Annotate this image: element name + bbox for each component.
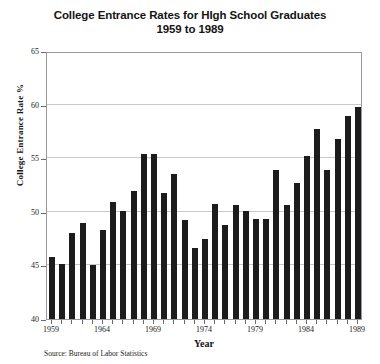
x-tick-mark — [71, 320, 72, 324]
y-tick-label: 55 — [31, 155, 39, 163]
bar — [49, 257, 55, 319]
y-tick-label: 50 — [31, 209, 39, 217]
x-tick-label: 1984 — [298, 325, 314, 334]
x-tick-mark — [194, 320, 195, 324]
x-tick-mark — [265, 320, 266, 324]
bar — [212, 204, 218, 319]
bar — [171, 174, 177, 319]
bar — [141, 154, 147, 319]
chart-title-line-2: 1959 to 1989 — [0, 22, 380, 36]
plot-area — [46, 52, 362, 320]
bar — [120, 211, 126, 319]
x-tick-mark — [286, 320, 287, 324]
x-tick-label: 1959 — [43, 325, 59, 334]
bar — [273, 170, 279, 319]
x-tick-mark — [255, 320, 256, 324]
x-tick-mark — [61, 320, 62, 324]
x-tick-mark — [122, 320, 123, 324]
bar — [59, 264, 65, 319]
source-note: Source: Bureau of Labor Statistics — [44, 349, 147, 358]
x-tick-mark — [163, 320, 164, 324]
bar — [90, 265, 96, 319]
bar-chart: College Entrance Rates for HIgh School G… — [0, 0, 380, 364]
bar — [253, 219, 259, 319]
y-tick-label: 45 — [31, 262, 39, 270]
bar — [294, 183, 300, 319]
x-tick-label: 1989 — [349, 325, 365, 334]
x-tick-label: 1964 — [94, 325, 110, 334]
bar — [314, 129, 320, 319]
bar — [243, 211, 249, 319]
y-tick-label: 40 — [31, 316, 39, 324]
x-tick-mark — [224, 320, 225, 324]
x-tick-mark — [316, 320, 317, 324]
x-tick-mark — [245, 320, 246, 324]
bar — [80, 223, 86, 319]
x-tick-mark — [112, 320, 113, 324]
x-tick-mark — [306, 320, 307, 324]
x-tick-mark — [173, 320, 174, 324]
bar — [100, 230, 106, 319]
y-tick-label: 60 — [31, 102, 39, 110]
bar — [284, 205, 290, 319]
x-tick-mark — [235, 320, 236, 324]
x-tick-mark — [143, 320, 144, 324]
bar — [222, 225, 228, 319]
bar — [131, 191, 137, 319]
bar — [161, 193, 167, 319]
chart-title: College Entrance Rates for HIgh School G… — [0, 8, 380, 36]
bar — [110, 202, 116, 319]
bar — [324, 170, 330, 319]
bar — [233, 205, 239, 319]
bars-layer — [47, 53, 361, 319]
bar — [182, 220, 188, 319]
bar — [151, 154, 157, 319]
bar — [335, 139, 341, 319]
x-tick-mark — [204, 320, 205, 324]
x-tick-mark — [51, 320, 52, 324]
x-tick-mark — [275, 320, 276, 324]
x-axis-title: Year — [46, 338, 362, 349]
x-tick-mark — [133, 320, 134, 324]
bar — [192, 248, 198, 319]
x-tick-mark — [326, 320, 327, 324]
x-tick-label: 1969 — [145, 325, 161, 334]
x-tick-mark — [296, 320, 297, 324]
x-tick-mark — [214, 320, 215, 324]
x-tick-label: 1979 — [247, 325, 263, 334]
bar — [345, 116, 351, 319]
x-tick-mark — [347, 320, 348, 324]
y-tick-label: 65 — [31, 48, 39, 56]
bar — [69, 233, 75, 319]
chart-title-line-1: College Entrance Rates for HIgh School G… — [54, 9, 327, 21]
x-tick-mark — [184, 320, 185, 324]
x-tick-mark — [82, 320, 83, 324]
x-tick-label: 1974 — [196, 325, 212, 334]
y-axis-ticks: 404550556065 — [0, 52, 46, 320]
x-tick-mark — [153, 320, 154, 324]
x-tick-mark — [92, 320, 93, 324]
x-tick-mark — [102, 320, 103, 324]
bar — [355, 107, 361, 319]
x-tick-mark — [337, 320, 338, 324]
bar — [202, 239, 208, 319]
bar — [263, 219, 269, 319]
x-tick-mark — [357, 320, 358, 324]
bar — [304, 156, 310, 319]
